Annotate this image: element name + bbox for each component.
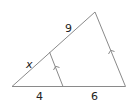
triangle-diagram: 9 x 4 6: [0, 0, 134, 106]
parallel-segment: [50, 52, 64, 87]
label-lower-left-segment: x: [25, 58, 33, 71]
label-top-segment: 9: [65, 22, 72, 35]
right-side: [95, 12, 126, 87]
label-base-left: 4: [36, 90, 43, 103]
hypotenuse-side: [12, 12, 95, 87]
label-base-right: 6: [91, 90, 98, 103]
